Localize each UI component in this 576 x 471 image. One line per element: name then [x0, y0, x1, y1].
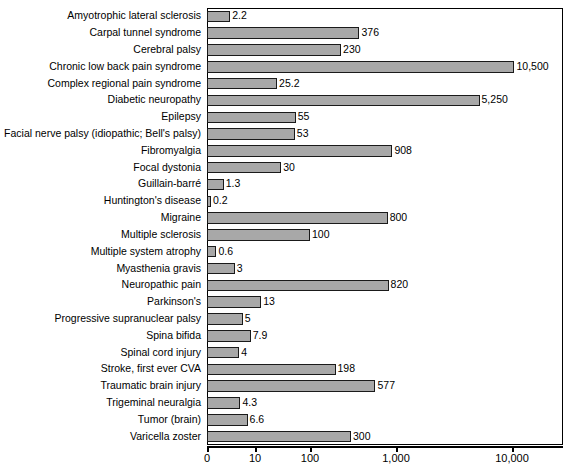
bar-value-label: 7.9: [253, 330, 268, 341]
bar-value-label: 1.3: [226, 178, 241, 189]
x-tick-label: 10: [249, 452, 261, 464]
category-label: Diabetic neuropathy: [0, 94, 204, 105]
bar: [207, 296, 261, 308]
bar: [207, 364, 336, 376]
bar-value-label: 5,250: [482, 94, 508, 105]
category-label: Varicella zoster: [0, 431, 204, 442]
bar: [207, 397, 240, 409]
bar-value-label: 4: [241, 347, 247, 358]
x-tick-label: 0: [204, 452, 210, 464]
category-label: Trigeminal neuralgia: [0, 397, 204, 408]
bar: [207, 347, 239, 359]
bar: [207, 229, 310, 241]
bar-value-label: 300: [353, 431, 371, 442]
bar: [207, 112, 296, 124]
category-label: Spinal cord injury: [0, 347, 204, 358]
bar-value-label: 577: [377, 380, 395, 391]
bar: [207, 196, 211, 208]
bar: [207, 280, 389, 292]
bar-value-label: 230: [343, 44, 361, 55]
category-label: Multiple sclerosis: [0, 229, 204, 240]
bar-value-label: 6.6: [250, 414, 265, 425]
bar-value-label: 5: [245, 313, 251, 324]
x-tick-label: 1,000: [382, 452, 410, 464]
bar-value-label: 30: [283, 162, 295, 173]
category-label: Cerebral palsy: [0, 44, 204, 55]
category-label: Myasthenia gravis: [0, 263, 204, 274]
bar: [207, 212, 388, 224]
category-label: Epilepsy: [0, 111, 204, 122]
category-label: Progressive supranuclear palsy: [0, 313, 204, 324]
category-label: Stroke, first ever CVA: [0, 363, 204, 374]
bar: [207, 95, 480, 107]
x-axis-line: [207, 446, 563, 448]
category-label: Parkinson's: [0, 296, 204, 307]
bar-value-label: 3: [237, 263, 243, 274]
category-label: Guillain-barré: [0, 178, 204, 189]
bar-value-label: 53: [297, 128, 309, 139]
category-label: Migraine: [0, 212, 204, 223]
category-label: Focal dystonia: [0, 162, 204, 173]
category-label: Facial nerve palsy (idiopathic; Bell's p…: [0, 128, 204, 139]
bar: [207, 179, 224, 191]
category-label: Chronic low back pain syndrome: [0, 61, 204, 72]
x-tick-label: 10,000: [495, 452, 529, 464]
bar-value-label: 4.3: [242, 397, 257, 408]
bar: [207, 128, 295, 140]
bar-value-label: 13: [263, 296, 275, 307]
bar-value-label: 10,500: [516, 61, 548, 72]
bar-value-label: 0.2: [213, 195, 228, 206]
bar: [207, 431, 351, 443]
bar-value-label: 908: [394, 145, 412, 156]
category-label: Fibromyalgia: [0, 145, 204, 156]
category-label: Amyotrophic lateral sclerosis: [0, 10, 204, 21]
bar-value-label: 55: [298, 111, 310, 122]
bar-value-label: 820: [391, 279, 409, 290]
bar-value-label: 25.2: [279, 78, 299, 89]
bar: [207, 61, 514, 73]
bar-value-label: 0.6: [218, 246, 233, 257]
bar-value-label: 800: [390, 212, 408, 223]
category-label: Multiple system atrophy: [0, 246, 204, 257]
x-tick-label: 100: [301, 452, 319, 464]
bar-value-label: 2.2: [232, 10, 247, 21]
category-label: Huntington's disease: [0, 195, 204, 206]
bar-value-label: 100: [312, 229, 330, 240]
category-label: Traumatic brain injury: [0, 380, 204, 391]
bar: [207, 380, 375, 392]
category-label: Complex regional pain syndrome: [0, 78, 204, 89]
bar-chart: Amyotrophic lateral sclerosisCarpal tunn…: [0, 0, 576, 471]
category-label: Carpal tunnel syndrome: [0, 27, 204, 38]
bar: [207, 414, 248, 426]
bar: [207, 11, 230, 23]
bar: [207, 330, 251, 342]
bar: [207, 145, 392, 157]
bar: [207, 78, 277, 90]
bar: [207, 246, 216, 258]
bar-value-label: 198: [338, 363, 356, 374]
category-label: Spina bifida: [0, 330, 204, 341]
bar: [207, 27, 359, 39]
bar: [207, 44, 341, 56]
category-label: Tumor (brain): [0, 414, 204, 425]
bar: [207, 263, 235, 275]
bar-value-label: 376: [361, 27, 379, 38]
bar: [207, 162, 281, 174]
bar: [207, 313, 243, 325]
category-label: Neuropathic pain: [0, 279, 204, 290]
